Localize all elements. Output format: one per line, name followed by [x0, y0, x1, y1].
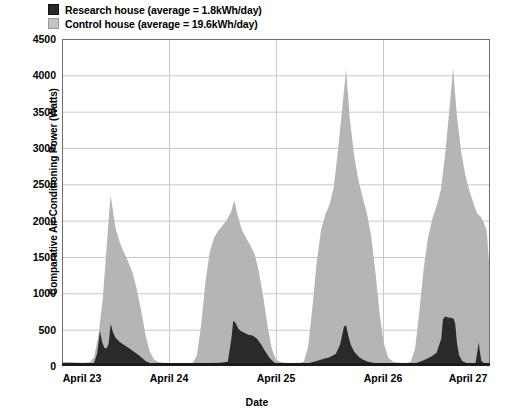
y-tick-label: 3500 — [4, 106, 56, 118]
y-tick-label: 3000 — [4, 142, 56, 154]
y-tick-label: 2000 — [4, 215, 56, 227]
x-tick-label: April 27 — [449, 372, 488, 384]
chart-legend: Research house (average = 1.8kWh/day) Co… — [48, 3, 262, 30]
y-tick-label: 1500 — [4, 251, 56, 263]
y-tick-label: 4000 — [4, 69, 56, 81]
x-axis-title: Date — [0, 396, 514, 408]
y-tick-label: 4500 — [4, 33, 56, 45]
y-tick-label: 500 — [4, 324, 56, 336]
plot-area — [62, 39, 490, 366]
x-tick-label: April 24 — [150, 372, 189, 384]
x-tick-label: April 26 — [364, 372, 403, 384]
x-tick-label: April 23 — [63, 372, 102, 384]
y-tick-label: 2500 — [4, 178, 56, 190]
y-tick-label: 0 — [4, 360, 56, 372]
legend-item-research: Research house (average = 1.8kWh/day) — [48, 3, 262, 16]
legend-label-control: Control house (average = 19.6kWh/day) — [65, 18, 258, 30]
legend-label-research: Research house (average = 1.8kWh/day) — [65, 4, 262, 16]
y-axis-ticks: 450040003500300025002000150010005000 — [0, 0, 56, 415]
x-tick-label: April 25 — [257, 372, 296, 384]
legend-item-control: Control house (average = 19.6kWh/day) — [48, 17, 262, 30]
plot-svg — [62, 39, 490, 366]
chart-root: Research house (average = 1.8kWh/day) Co… — [0, 0, 514, 415]
y-tick-label: 1000 — [4, 287, 56, 299]
